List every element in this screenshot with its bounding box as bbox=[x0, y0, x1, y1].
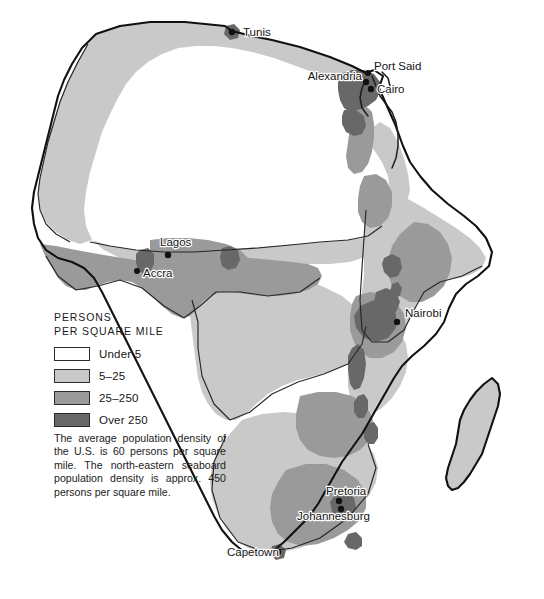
city-label-cairo: Cairo bbox=[377, 83, 404, 95]
city-label-pretoria: Pretoria bbox=[326, 485, 367, 497]
legend-swatch-5-25 bbox=[54, 369, 90, 383]
city-label-nairobi: Nairobi bbox=[405, 307, 441, 319]
city-dot-pretoria bbox=[336, 498, 342, 504]
population-density-map: Tunis Alexandria Port Said Cairo Lagos A… bbox=[0, 0, 544, 599]
legend-swatch-under-5 bbox=[54, 347, 90, 361]
legend-title: PERSONSPER SQUARE MILE bbox=[54, 311, 234, 338]
africa-map-graphic: Tunis Alexandria Port Said Cairo Lagos A… bbox=[0, 0, 544, 599]
legend-label-5-25: 5–25 bbox=[99, 370, 125, 382]
city-label-accra: Accra bbox=[143, 267, 173, 279]
city-dot-tunis bbox=[229, 29, 235, 35]
city-label-port-said: Port Said bbox=[374, 60, 421, 72]
city-dot-accra bbox=[134, 268, 140, 274]
city-dot-port-said bbox=[365, 70, 371, 76]
map-note: The average population density of the U.… bbox=[54, 432, 226, 499]
city-label-johannesburg: Johannesburg bbox=[297, 510, 370, 522]
legend-item-5-25[interactable]: 5–25 bbox=[54, 366, 234, 385]
legend-item-over-250[interactable]: Over 250 bbox=[54, 410, 234, 429]
city-dot-cairo bbox=[368, 86, 374, 92]
legend-title-line1: PERSONS bbox=[54, 311, 112, 323]
city-label-tunis: Tunis bbox=[243, 26, 271, 38]
city-label-alexandria: Alexandria bbox=[308, 70, 363, 82]
city-dot-alexandria bbox=[363, 79, 369, 85]
legend-label-over-250: Over 250 bbox=[99, 414, 148, 426]
band-over250-durban bbox=[344, 532, 362, 550]
map-legend: PERSONSPER SQUARE MILE Under 5 5–25 25–2… bbox=[54, 311, 234, 432]
legend-title-line2: PER SQUARE MILE bbox=[54, 325, 164, 337]
legend-label-under-5: Under 5 bbox=[99, 348, 141, 360]
city-dot-lagos bbox=[165, 252, 171, 258]
legend-item-25-250[interactable]: 25–250 bbox=[54, 388, 234, 407]
legend-label-25-250: 25–250 bbox=[99, 392, 139, 404]
legend-item-under-5[interactable]: Under 5 bbox=[54, 344, 234, 363]
city-label-lagos: Lagos bbox=[160, 236, 192, 248]
city-dot-nairobi bbox=[394, 319, 400, 325]
legend-swatch-over-250 bbox=[54, 413, 90, 427]
city-label-capetown: Capetown bbox=[227, 546, 279, 558]
legend-swatch-25-250 bbox=[54, 391, 90, 405]
